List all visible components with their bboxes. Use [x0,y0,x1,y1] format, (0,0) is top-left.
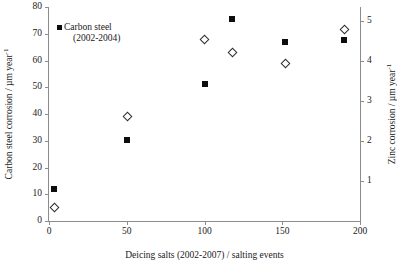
y-axis-right-tick [360,61,364,62]
legend-label-line2: (2002-2004) [64,33,121,44]
legend-label-line1: Carbon steel [64,22,112,32]
data-point [122,112,132,122]
legend-item-carbon-steel: Carbon steel (2002-2004) [57,22,121,44]
legend-marker-filled-square-icon [57,25,62,30]
y-axis-left-tick-label: 30 [33,136,43,146]
x-axis-tick [282,221,283,225]
data-point [51,186,57,192]
data-point [49,202,59,212]
y-axis-right-title-exponent: -1 [385,64,393,70]
data-point [200,34,210,44]
y-axis-right-tick-label: 2 [367,136,372,146]
data-point [340,24,350,34]
x-axis-tick-label: 100 [197,227,211,237]
x-axis-tick [127,221,128,225]
y-axis-right-tick-label: 1 [367,176,372,186]
data-point [228,48,238,58]
y-axis-right-tick-label: 3 [367,96,372,106]
y-axis-left-tick-label: 50 [33,83,43,93]
y-axis-left-tick [45,141,49,142]
y-axis-left-title: Carbon steel corrosion / µm year-1 [2,49,14,180]
y-axis-left-tick [45,194,49,195]
y-axis-left-tick-label: 40 [33,109,43,119]
x-axis-tick-label: 50 [122,227,132,237]
y-axis-left-tick [45,61,49,62]
data-point [124,137,130,143]
x-axis-title: Deicing salts (2002-2007) / salting even… [48,250,361,260]
y-axis-left-tick [45,114,49,115]
y-axis-left-tick [45,87,49,88]
y-axis-right-tick [360,141,364,142]
y-axis-left-tick-label: 80 [33,2,43,12]
y-axis-left-tick-label: 0 [37,216,42,226]
y-axis-left-tick [45,168,49,169]
data-point [202,81,208,87]
x-axis-tick-label: 150 [275,227,289,237]
legend-label-group: Carbon steel (2002-2004) [64,22,121,44]
y-axis-left-tick [45,34,49,35]
y-axis-right-tick [360,181,364,182]
y-axis-right-tick [360,21,364,22]
data-point [281,58,291,68]
x-axis-tick [360,221,361,225]
chart-legend: Carbon steel (2002-2004) [57,22,121,44]
y-axis-left-title-exponent: -1 [2,49,10,55]
y-axis-right-tick-label: 5 [367,16,372,26]
y-axis-right-title: Zinc corrosion / µm year-1 [385,64,397,164]
data-point [341,37,347,43]
y-axis-right-title-text: Zinc corrosion / µm year [387,70,397,165]
x-axis-tick-label: 0 [47,227,52,237]
y-axis-right-tick [360,101,364,102]
y-axis-left-tick-label: 10 [33,190,43,200]
x-axis-tick [49,221,50,225]
data-point [282,39,288,45]
x-axis-tick [205,221,206,225]
y-axis-left-tick-label: 60 [33,56,43,66]
data-point [229,16,235,22]
y-axis-right-tick-label: 4 [367,56,372,66]
y-axis-left-tick-label: 20 [33,163,43,173]
y-axis-left-title-text: Carbon steel corrosion / µm year [4,54,14,179]
y-axis-left-tick [45,7,49,8]
x-axis-tick-label: 200 [353,227,367,237]
y-axis-left-tick-label: 70 [33,29,43,39]
